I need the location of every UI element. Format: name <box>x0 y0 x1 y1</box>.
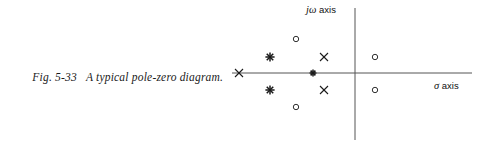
sigma-axis-label: σ axis <box>434 80 459 91</box>
jw-axis-label-text: axis <box>316 4 336 15</box>
pole-zero-diagram: jω axis σ axis <box>0 0 486 148</box>
marker-double-poles-1 <box>265 85 274 94</box>
marker-zeros-0 <box>293 36 298 41</box>
jw-axis-symbol: jω <box>306 4 316 15</box>
marker-poles-2 <box>320 86 328 94</box>
marker-zeros-3 <box>372 87 377 92</box>
sigma-axis-label-text: axis <box>439 80 459 91</box>
figure-page: Fig. 5-33A typical pole-zero diagram. jω… <box>0 0 486 148</box>
axis-lines <box>232 8 472 140</box>
marker-zeros-1 <box>293 104 298 109</box>
marker-double-poles-0 <box>265 52 274 61</box>
pole-zero-plot-svg <box>0 0 486 148</box>
marker-double-poles-2 <box>310 70 317 77</box>
marker-poles-1 <box>320 53 328 61</box>
marker-zeros-2 <box>372 54 377 59</box>
jw-axis-label: jω axis <box>306 4 336 15</box>
